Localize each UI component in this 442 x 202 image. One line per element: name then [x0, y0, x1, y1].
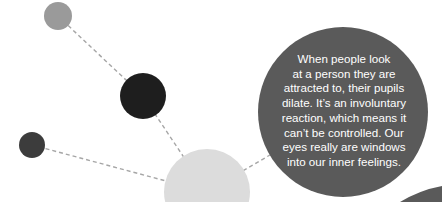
text-line: When people look	[268, 52, 420, 67]
text-line: attracted to, their pupils	[268, 81, 420, 96]
dark-dot	[19, 132, 45, 158]
text-line: reaction, which means it	[268, 111, 420, 126]
bubble-text: When people look at a person they are at…	[268, 52, 420, 170]
black-dot	[120, 73, 166, 119]
text-line: eyes really are windows	[268, 140, 420, 155]
text-line: can’t be controlled. Our	[268, 126, 420, 141]
corner-arc-shape	[400, 186, 442, 202]
text-line: into our inner feelings.	[268, 155, 420, 170]
gray-dot	[44, 2, 72, 30]
light-bubble	[164, 149, 250, 202]
text-line: at a person they are	[268, 67, 420, 82]
text-line: dilate. It’s an involuntary	[268, 96, 420, 111]
